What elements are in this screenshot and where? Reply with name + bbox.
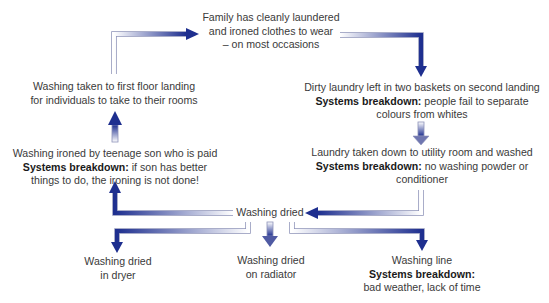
dryer-line-1: Washing dried xyxy=(73,255,163,269)
dried-text: Washing dried xyxy=(236,206,304,220)
breakdown-label: Systems breakdown: xyxy=(316,160,422,172)
radiator-line-2: on radiator xyxy=(226,268,316,282)
arrow-ironed-to-landing xyxy=(108,111,122,142)
node-landing: Washing taken to first floor landing for… xyxy=(14,80,214,107)
ironed-breakdown: Systems breakdown: if son has better xyxy=(2,161,228,175)
line-text: Washing line xyxy=(362,254,482,268)
dryer-line-2: in dryer xyxy=(73,269,163,283)
arrow-dried-to-line xyxy=(292,222,428,251)
line-breakdown-label: Systems breakdown: xyxy=(362,268,482,282)
node-dirty-laundry: Dirty laundry left in two baskets on sec… xyxy=(298,81,546,122)
node-washed: Laundry taken down to utility room and w… xyxy=(298,146,546,187)
goal-line-1: Family has cleanly laundered xyxy=(200,11,342,25)
node-ironed: Washing ironed by teenage son who is pai… xyxy=(2,147,228,188)
breakdown-text: if son has better xyxy=(132,161,207,173)
goal-line-2: and ironed clothes to wear xyxy=(200,25,342,39)
arrow-dried-to-dryer xyxy=(111,222,248,253)
goal-line-3: – on most occasions xyxy=(200,38,342,52)
radiator-line-1: Washing dried xyxy=(226,254,316,268)
breakdown-label: Systems breakdown: xyxy=(23,161,129,173)
node-washing-dried: Washing dried xyxy=(236,206,304,220)
node-washing-line: Washing line Systems breakdown: bad weat… xyxy=(362,254,482,295)
node-goal: Family has cleanly laundered and ironed … xyxy=(200,11,342,52)
breakdown-label: Systems breakdown: xyxy=(315,95,421,107)
arrow-dirty-to-washed xyxy=(413,122,429,145)
node-dryer: Washing dried in dryer xyxy=(73,255,163,282)
washed-breakdown-2: conditioner xyxy=(298,173,546,187)
washed-breakdown: Systems breakdown: no washing powder or xyxy=(298,160,546,174)
landing-line-1: Washing taken to first floor landing xyxy=(14,80,214,94)
dirty-breakdown-2: colours from whites xyxy=(298,108,546,122)
ironed-breakdown-2: things to do, the ironing is not done! xyxy=(2,174,228,188)
ironed-text: Washing ironed by teenage son who is pai… xyxy=(2,147,228,161)
breakdown-label: Systems breakdown: xyxy=(369,268,475,280)
line-breakdown-text: bad weather, lack of time xyxy=(362,281,482,295)
dirty-text: Dirty laundry left in two baskets on sec… xyxy=(298,81,546,95)
arrow-landing-to-goal xyxy=(114,28,199,74)
arrow-goal-to-dirty xyxy=(340,35,427,77)
washed-text: Laundry taken down to utility room and w… xyxy=(298,146,546,160)
breakdown-text: people fail to separate xyxy=(424,95,528,107)
landing-line-2: for individuals to take to their rooms xyxy=(14,94,214,108)
dirty-breakdown: Systems breakdown: people fail to separa… xyxy=(298,95,546,109)
arrow-dried-to-radiator xyxy=(262,222,278,247)
node-radiator: Washing dried on radiator xyxy=(226,254,316,281)
breakdown-text: no washing powder or xyxy=(425,160,529,172)
arrow-washed-to-dried xyxy=(305,190,421,219)
